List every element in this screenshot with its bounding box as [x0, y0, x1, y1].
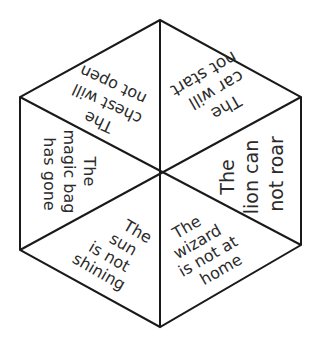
- segment-lion-line-2: lion can: [240, 140, 262, 214]
- segment-car: The car will not start: [167, 47, 260, 136]
- segment-lion-line-1: The: [216, 159, 238, 195]
- segment-magic-bag-line-1: The: [80, 156, 99, 187]
- segment-magic-bag: The magic bag has gone: [40, 129, 99, 218]
- segment-magic-bag-line-2: magic bag: [60, 129, 79, 213]
- svg-text:The car will not s: The car will not start: [167, 47, 260, 136]
- segment-lion-line-3: not roar: [265, 136, 287, 212]
- segment-lion: The lion can not roar: [216, 134, 287, 214]
- svg-text:The magic bag has: The magic bag has gone: [40, 129, 99, 218]
- segment-magic-bag-line-3: has gone: [40, 137, 59, 210]
- svg-text:The lion can not r: The lion can not roar: [216, 134, 287, 214]
- hexagon-diagram: The car will not start The lion can not …: [0, 0, 319, 344]
